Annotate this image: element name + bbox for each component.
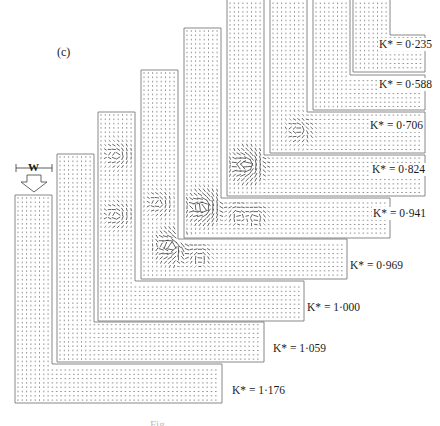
- velocity-vector: [198, 193, 202, 196]
- velocity-vector: [126, 140, 127, 142]
- velocity-vector: [285, 118, 286, 120]
- velocity-vector: [105, 226, 106, 228]
- velocity-vector: [148, 188, 149, 190]
- velocity-vector: [230, 153, 231, 156]
- velocity-vector: [186, 262, 189, 263]
- velocity-vector: [255, 152, 257, 156]
- velocity-vector: [121, 221, 123, 224]
- velocity-vector: [161, 261, 162, 264]
- velocity-vector: [297, 136, 301, 138]
- velocity-vector: [187, 219, 188, 221]
- velocity-vector: [165, 226, 167, 229]
- panel-label-k-star: K* = 0·969: [349, 259, 404, 272]
- velocity-vector: [109, 200, 111, 202]
- velocity-vector: [315, 132, 317, 133]
- velocity-vector: [251, 144, 252, 147]
- channel-outline: [98, 112, 304, 321]
- velocity-vector: [185, 257, 188, 258]
- velocity-vector: [241, 219, 244, 221]
- velocity-vector: [116, 213, 120, 216]
- velocity-vector: [109, 140, 110, 142]
- velocity-vector: [104, 153, 107, 155]
- velocity-vector: [229, 219, 230, 222]
- velocity-vector: [234, 178, 235, 181]
- velocity-vector: [258, 207, 261, 208]
- velocity-vector: [168, 257, 172, 260]
- velocity-vector: [156, 200, 159, 204]
- velocity-vector: [157, 231, 158, 234]
- velocity-vector: [202, 193, 206, 196]
- velocity-vector: [173, 226, 175, 229]
- velocity-vector: [101, 148, 102, 150]
- velocity-vector: [169, 265, 170, 268]
- velocity-vector: [172, 235, 177, 239]
- velocity-vector: [250, 173, 254, 177]
- velocity-vector: [268, 211, 270, 212]
- velocity-vector: [212, 249, 214, 250]
- velocity-vector: [116, 217, 120, 219]
- velocity-vector: [185, 248, 189, 250]
- velocity-vector: [127, 230, 128, 232]
- velocity-vector: [159, 235, 163, 237]
- velocity-vector: [237, 153, 241, 155]
- velocity-vector: [171, 247, 177, 252]
- velocity-vector: [155, 197, 159, 198]
- velocity-vector: [185, 244, 189, 246]
- velocity-vector: [289, 136, 292, 137]
- velocity-vector: [238, 183, 239, 186]
- velocity-vector: [165, 265, 166, 267]
- velocity-vector: [293, 127, 296, 130]
- velocity-vector: [186, 197, 187, 200]
- velocity-vector: [233, 223, 235, 225]
- velocity-vector: [259, 228, 261, 229]
- velocity-vector: [108, 157, 111, 159]
- panel-label-k-star: K* = 0·235: [378, 38, 433, 51]
- velocity-vector: [203, 252, 206, 255]
- velocity-vector: [255, 148, 257, 151]
- velocity-vector: [302, 130, 304, 134]
- velocity-vector: [105, 200, 106, 202]
- velocity-vector: [241, 153, 246, 155]
- velocity-vector: [263, 174, 266, 176]
- velocity-vector: [307, 131, 309, 135]
- velocity-vector: [220, 206, 224, 208]
- velocity-vector: [118, 230, 119, 232]
- velocity-vector: [122, 208, 124, 211]
- velocity-vector: [165, 218, 166, 220]
- velocity-vector: [190, 206, 193, 209]
- velocity-vector: [263, 229, 265, 230]
- velocity-vector: [237, 178, 240, 181]
- velocity-vector: [302, 126, 304, 130]
- velocity-vector: [315, 136, 317, 137]
- velocity-vector: [250, 178, 253, 182]
- velocity-vector: [155, 193, 158, 195]
- velocity-vector: [245, 152, 249, 155]
- velocity-vector: [168, 242, 172, 248]
- velocity-vector: [191, 223, 192, 225]
- velocity-vector: [217, 223, 218, 226]
- velocity-vector: [165, 196, 167, 199]
- velocity-vector: [285, 131, 286, 133]
- velocity-vector: [251, 219, 253, 222]
- velocity-vector: [229, 203, 232, 204]
- velocity-vector: [165, 188, 166, 190]
- velocity-vector: [151, 206, 154, 207]
- velocity-vector: [112, 162, 116, 163]
- velocity-vector: [289, 123, 292, 124]
- velocity-vector: [148, 214, 149, 216]
- velocity-vector: [166, 249, 173, 250]
- velocity-vector: [169, 196, 170, 199]
- velocity-vector: [187, 193, 188, 196]
- channel-outline: [184, 28, 390, 238]
- velocity-vector: [241, 211, 245, 213]
- velocity-vector: [165, 192, 167, 195]
- velocity-vector: [236, 215, 240, 216]
- velocity-vector: [181, 243, 185, 248]
- velocity-vector: [117, 144, 120, 146]
- velocity-vector: [233, 152, 236, 155]
- velocity-vectors: [18, 0, 421, 401]
- velocity-vector: [117, 226, 119, 228]
- velocity-vector: [264, 219, 265, 222]
- velocity-vector: [117, 221, 120, 223]
- velocity-vector: [118, 196, 119, 198]
